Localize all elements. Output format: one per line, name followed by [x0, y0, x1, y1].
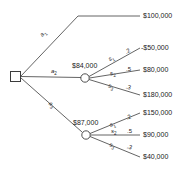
state-label-a3-s2: s2: [111, 128, 117, 137]
expected-value-a3: $87,000: [73, 119, 98, 126]
payoff-a3-s1: $150,000: [143, 109, 172, 116]
chance-node-a2: [81, 74, 89, 82]
branch-label-a2: a2: [51, 68, 57, 77]
state-label-a2-s2: s2: [109, 70, 116, 79]
expected-value-a2: $84,000: [72, 62, 97, 69]
branch-a2-s3: [89, 80, 140, 96]
payoff-a2-s1: -$50,000: [141, 44, 169, 51]
payoff-a3-s2: $90,000: [143, 131, 168, 138]
payoff-a3-s3: $40,000: [143, 153, 168, 160]
probability-a3-s2: .5: [127, 128, 132, 134]
decision-node-square: [11, 72, 21, 82]
decision-tree-canvas: [0, 0, 185, 178]
probability-a2-s2: .5: [126, 66, 131, 72]
payoff-a1: $100,000: [143, 12, 172, 19]
payoff-a2-s3: $180,000: [143, 91, 172, 98]
decision-tree-diagram: a1 a2 a3 $84,000 $87,000 s1 .2 s2 .5 s3 …: [0, 0, 185, 178]
payoff-a2-s2: $80,000: [143, 66, 168, 73]
chance-node-a3: [82, 131, 90, 139]
